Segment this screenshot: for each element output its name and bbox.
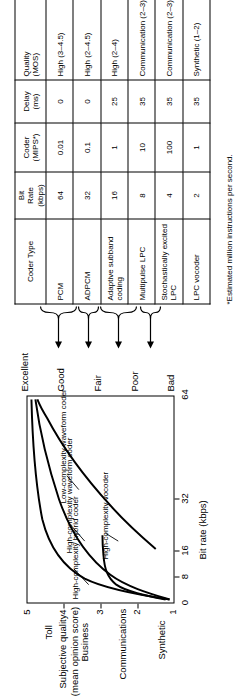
cell-coder-type: Stochastically excited LPC (155, 219, 182, 304)
header-quality-line2: (MOS) (30, 0, 39, 76)
cell-quality: Synthetic (1–2) (182, 0, 209, 80)
annotation-lowcomplexity-line1: Low-complexity waveform coder (58, 389, 67, 503)
curve-low-complexity-waveform-coder (37, 399, 155, 549)
arrow-head-synthetic (147, 341, 154, 348)
y-tick-label-5: 5 (20, 609, 31, 625)
column-header-quality: Quality (MOS) (15, 0, 46, 80)
cell-delay: 0 (73, 80, 100, 123)
cell-delay: 35 (182, 80, 209, 123)
table-row: LPC vocoder 2 1 35 Synthetic (1–2) (182, 0, 209, 304)
cell-bit-rate: 4 (155, 172, 182, 219)
cell-quality: Communication (2–3) (155, 0, 182, 80)
header-coder-mips-line2: (MIPS*) (30, 126, 39, 168)
header-delay-line2: (ms) (30, 83, 39, 119)
table-row: Multipulse LPC 8 10 35 Communication (2–… (127, 0, 154, 304)
y-tick-label-3: 3 (93, 609, 104, 625)
cell-coder-mips: 100 (155, 123, 182, 172)
table-row: ADPCM 32 0.1 0 High (2–4.5) (73, 0, 100, 304)
quality-category-communications: Communications (116, 608, 127, 679)
y-tick-mark-3 (100, 603, 101, 608)
x-tick-label-64: 64 (178, 385, 189, 403)
y-tick-mark-4 (63, 603, 64, 608)
header-coder-mips-line1: Coder (21, 126, 30, 168)
cell-bit-rate: 64 (45, 172, 72, 219)
arrow-head-communications (115, 341, 122, 348)
cell-bit-rate: 2 (182, 172, 209, 219)
cell-bit-rate: 32 (73, 172, 100, 219)
annotation-vocoder-line1: High-complexity vocoder (100, 471, 109, 559)
table-head: Coder Type Bit Rate (kbps) Coder (MIPS*)… (15, 0, 46, 304)
cell-quality: Communication (2–3) (127, 0, 154, 80)
right-axis-label-excellent: Excellent (18, 352, 29, 391)
cell-quality: High (3–4.5) (45, 0, 72, 80)
header-bit-rate-line2: Rate (25, 175, 34, 215)
cell-coder-mips: 1 (182, 123, 209, 172)
column-header-coder-mips: Coder (MIPS*) (15, 123, 46, 172)
arrow-head-business (85, 341, 92, 348)
table-row: PCM 64 0.01 0 High (3–4.5) (45, 0, 72, 304)
x-tick-label-8: 8 (178, 567, 189, 585)
table-header-row: Coder Type Bit Rate (kbps) Coder (MIPS*)… (15, 0, 46, 304)
quality-category-synthetic: Synthetic (155, 620, 166, 659)
connector-graphics (0, 304, 244, 350)
table-to-chart-connectors (0, 304, 244, 350)
brace-communications (100, 306, 136, 318)
figure-rotation-wrapper: Subjective quality (mean opinion score) … (0, 0, 244, 699)
cell-coder-mips: 1 (100, 123, 127, 172)
table-body: PCM 64 0.01 0 High (3–4.5) ADPCM 32 0.1 … (45, 0, 209, 304)
cell-bit-rate: 8 (127, 172, 154, 219)
cell-coder-mips: 0.01 (45, 123, 72, 172)
cell-coder-mips: 0.1 (73, 123, 100, 172)
cell-coder-type: Adaptive subband coding (100, 219, 127, 304)
arrow-head-toll (55, 341, 62, 348)
table-row: Adaptive subband coding 16 1 25 High (2–… (100, 0, 127, 304)
column-header-bit-rate: Bit Rate (kbps) (15, 172, 46, 219)
cell-delay: 25 (100, 80, 127, 123)
right-axis-label-poor: Poor (128, 371, 139, 391)
brace-synthetic (140, 306, 160, 318)
y-tick-mark-2 (137, 603, 138, 608)
header-delay-line1: Delay (21, 83, 30, 119)
cell-coder-type: Multipulse LPC (127, 219, 154, 304)
table-row: Stochastically excited LPC 4 100 35 Comm… (155, 0, 182, 304)
y-tick-label-1: 1 (166, 609, 177, 625)
header-bit-rate-line3: (kbps) (35, 175, 44, 215)
figure-canvas: Subjective quality (mean opinion score) … (0, 0, 244, 699)
cell-delay: 0 (45, 80, 72, 123)
cell-quality: High (2–4.5) (73, 0, 100, 80)
cell-bit-rate: 16 (100, 172, 127, 219)
header-bit-rate-line1: Bit (16, 175, 25, 215)
cell-coder-type: LPC vocoder (182, 219, 209, 304)
annotation-high-complexity-vocoder: High-complexity vocoder (100, 471, 109, 559)
x-tick-label-16: 16 (178, 541, 189, 559)
x-tick-label-0: 0 (178, 593, 189, 611)
coder-comparison-table-wrapper: Coder Type Bit Rate (kbps) Coder (MIPS*)… (14, 18, 222, 304)
right-axis-label-bad: Bad (164, 374, 175, 391)
header-coder-type-text: Coder Type (25, 240, 34, 281)
y-tick-label-2: 2 (130, 609, 141, 625)
x-tick-label-32: 32 (178, 489, 189, 507)
brace-business (78, 306, 98, 318)
cell-coder-mips: 10 (127, 123, 154, 172)
subjective-quality-chart: Subjective quality (mean opinion score) … (0, 350, 244, 699)
y-tick-label-4: 4 (56, 609, 67, 625)
curve-high-complexity-vocoder (102, 535, 165, 599)
coder-comparison-table: Coder Type Bit Rate (kbps) Coder (MIPS*)… (14, 0, 210, 304)
brace-toll (40, 306, 76, 318)
cell-delay: 35 (127, 80, 154, 123)
header-quality-line1: Quality (21, 0, 30, 76)
annotation-low-complexity-waveform-coder: Low-complexity waveform coder (58, 389, 67, 503)
quality-category-business: Business (78, 622, 89, 661)
cell-delay: 35 (155, 80, 182, 123)
right-axis-label-fair: Fair (91, 375, 102, 391)
right-axis-label-good: Good (54, 368, 65, 391)
column-header-coder-type: Coder Type (15, 219, 46, 304)
chart-x-axis-title: Bit rate (kbps) (196, 500, 207, 559)
cell-coder-type: ADPCM (73, 219, 100, 304)
cell-coder-type: PCM (45, 219, 72, 304)
column-header-delay: Delay (ms) (15, 80, 46, 123)
cell-quality: High (2–4) (100, 0, 127, 80)
quality-category-toll: Toll (42, 625, 53, 639)
table-footnote: *Estimated million instructions per seco… (224, 154, 233, 304)
